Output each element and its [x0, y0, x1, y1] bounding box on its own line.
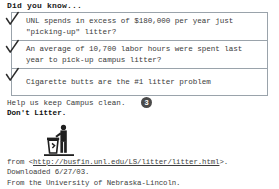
fact-text: Cigarette butts are the #1 litter proble…	[11, 68, 268, 96]
source-suffix: >.	[219, 158, 228, 166]
fact-line: Cigarette butts are the #1 litter proble…	[26, 77, 263, 88]
page-title: Did you know...	[7, 1, 82, 10]
source-url-line: from <http://busfin.unl.edu/LS/litter/li…	[7, 157, 228, 167]
fact-row: An average of 10,700 labor hours were sp…	[11, 40, 268, 68]
step-badge: 3	[141, 97, 152, 108]
person-using-trash-can-icon	[44, 124, 74, 158]
fact-text: An average of 10,700 labor hours were sp…	[11, 40, 268, 68]
dont-litter-text: Don't Litter.	[7, 108, 125, 118]
help-line: Help us keep Campus clean.	[7, 98, 125, 108]
fact-line: An average of 10,700 labor hours were sp…	[26, 44, 263, 55]
downloaded-date: Downloaded 6/27/03.	[7, 167, 228, 177]
fact-row: UNL spends in excess of $180,000 per yea…	[11, 12, 268, 40]
help-message: Help us keep Campus clean. Don't Litter.	[7, 98, 125, 118]
source-prefix: from <	[7, 158, 33, 166]
fact-list: UNL spends in excess of $180,000 per yea…	[11, 12, 268, 96]
source-url[interactable]: http://busfin.unl.edu/LS/litter/litter.h…	[33, 158, 219, 166]
fact-line: year to pick-up campus litter?	[26, 55, 263, 66]
fact-line: UNL spends in excess of $180,000 per yea…	[26, 16, 263, 27]
fact-row: Cigarette butts are the #1 litter proble…	[11, 68, 268, 96]
institution-attribution: From the University of Nebraska-Lincoln.	[7, 178, 228, 188]
fact-text: UNL spends in excess of $180,000 per yea…	[11, 12, 268, 40]
litter-info-panel: Did you know... UNL spends in excess of …	[0, 0, 279, 189]
fact-line: "picking-up" litter?	[26, 27, 263, 38]
source-attribution: from <http://busfin.unl.edu/LS/litter/li…	[7, 157, 228, 188]
